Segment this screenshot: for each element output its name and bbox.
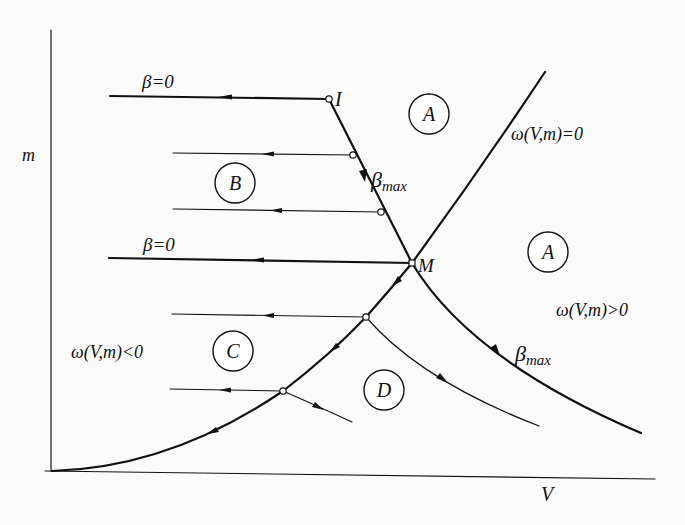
arrow-left-icon [250, 258, 264, 263]
beta-max-label-upper: βmax [370, 167, 407, 194]
node-point [378, 209, 384, 215]
arrow-left-icon [262, 313, 274, 318]
omega-positive-label: ω(V,m)>0 [556, 300, 628, 321]
x-axis [45, 471, 655, 479]
diagram-canvas: m V [0, 0, 685, 525]
region-a-upper: A [409, 94, 449, 134]
arrow-down-right-icon [436, 373, 448, 383]
region-d-label: D [376, 379, 392, 401]
arrow-left-icon [218, 95, 232, 100]
point-m-label: M [417, 255, 435, 276]
y-axis-label: m [22, 145, 35, 165]
beta-max-curve-lower [412, 263, 641, 433]
region-a-right-label: A [540, 241, 555, 263]
arrow-down-right-icon [312, 402, 324, 410]
omega-negative-label: ω(V,m)<0 [71, 342, 143, 363]
node-point [363, 314, 369, 320]
region-a-upper-label: A [421, 103, 436, 125]
region-b: B [215, 163, 255, 203]
region-a-right: A [528, 232, 568, 272]
point-i-label: I [334, 88, 343, 110]
point-m [409, 260, 415, 266]
beta-zero-label-middle: β=0 [142, 234, 175, 255]
x-axis-label: V [541, 483, 556, 505]
phase-diagram: m V [0, 0, 685, 525]
node-point [350, 152, 356, 158]
arrow-left-icon [270, 208, 282, 213]
omega-zero-curve [52, 72, 545, 471]
point-i [326, 96, 332, 102]
arrow-left-icon [219, 388, 231, 393]
region-c-label: C [226, 340, 240, 362]
omega-zero-label: ω(V,m)=0 [511, 124, 583, 145]
beta-zero-line-top [110, 96, 329, 99]
region-b-label: B [229, 172, 241, 194]
beta-max-label-lower: βmax [514, 341, 551, 368]
beta-zero-label-top: β=0 [141, 71, 174, 92]
region-d: D [364, 370, 404, 410]
node-point [280, 388, 286, 394]
arrow-down-icon [359, 169, 367, 182]
region-c: C [213, 331, 253, 371]
arrow-down-left-icon [207, 427, 219, 434]
arrow-left-icon [262, 152, 274, 157]
